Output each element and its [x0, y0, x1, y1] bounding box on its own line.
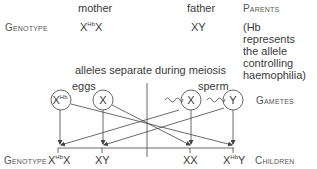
inheritance-diagram	[0, 0, 317, 169]
genotype-label-bottom: Genotype	[4, 155, 47, 167]
child-genotype-2: XY	[95, 154, 110, 166]
child-genotype-3: XX	[183, 154, 198, 166]
child-genotype-4: XHbY	[223, 154, 245, 166]
gamete-y: Y	[223, 94, 243, 106]
gamete-x-sperm: X	[181, 94, 201, 106]
gamete-x-egg: X	[93, 94, 113, 106]
gamete-xhb: XHb	[50, 94, 70, 106]
children-label: Children	[255, 155, 295, 167]
child-genotype-1: XHbX	[48, 154, 70, 166]
